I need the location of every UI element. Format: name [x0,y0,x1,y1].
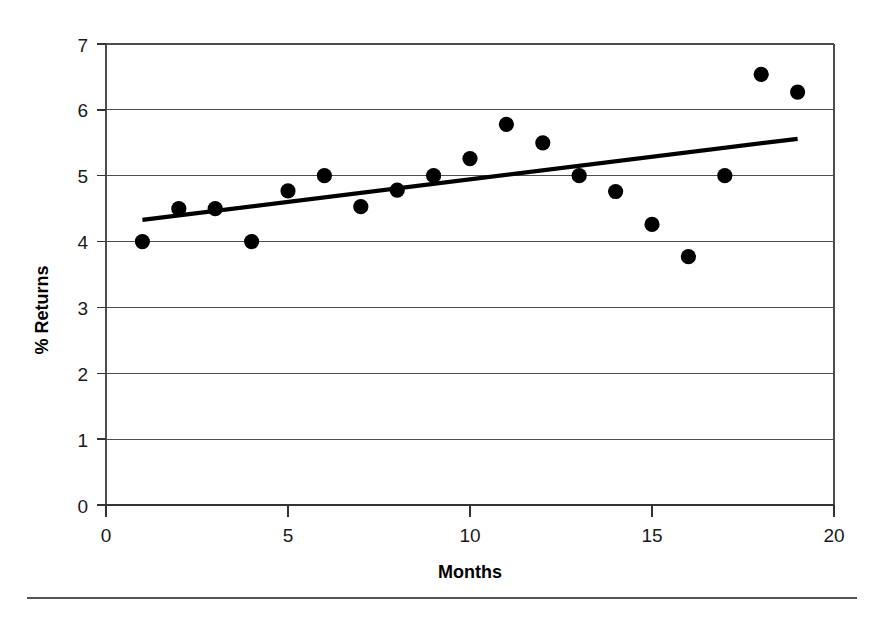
data-point [535,135,550,150]
data-point [608,184,623,199]
ytick-label-1: 1 [77,430,88,451]
chart-figure: 7 6 5 4 3 2 1 0 0 5 10 15 20 Months % Re… [0,0,883,621]
data-point [426,168,441,183]
data-point [754,67,769,82]
ytick-label-6: 6 [77,100,88,121]
data-point [317,168,332,183]
x-axis-ticks [106,505,834,517]
ytick-label-5: 5 [77,166,88,187]
y-axis-tick-labels: 7 6 5 4 3 2 1 0 [77,35,88,517]
y-axis-ticks [97,44,106,505]
xtick-label-20: 20 [823,525,844,546]
y-axis-title: % Returns [32,265,52,354]
x-axis-title: Months [438,562,502,582]
data-point [244,234,259,249]
data-point [208,201,223,216]
data-point [135,234,150,249]
ytick-label-7: 7 [77,35,88,56]
data-point [171,201,186,216]
data-point [790,84,805,99]
data-point [353,199,368,214]
xtick-label-5: 5 [283,525,294,546]
ytick-label-0: 0 [77,496,88,517]
xtick-label-15: 15 [641,525,662,546]
data-point [462,151,477,166]
scatter-plot-canvas: 7 6 5 4 3 2 1 0 0 5 10 15 20 Months % Re… [0,0,883,621]
data-point [572,168,587,183]
data-point [499,117,514,132]
data-point [717,168,732,183]
xtick-label-0: 0 [101,525,112,546]
data-point [681,249,696,264]
ytick-label-4: 4 [77,232,88,253]
ytick-label-2: 2 [77,364,88,385]
data-point [644,217,659,232]
data-point [390,183,405,198]
data-point [280,183,295,198]
x-axis-tick-labels: 0 5 10 15 20 [101,525,845,546]
ytick-label-3: 3 [77,298,88,319]
xtick-label-10: 10 [459,525,480,546]
